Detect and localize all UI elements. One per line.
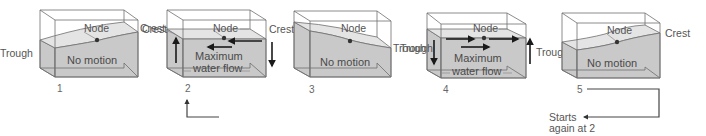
panel-number: 4	[443, 84, 449, 95]
no-motion-label: No motion	[67, 54, 117, 66]
max-flow-label-2: water flow	[451, 65, 502, 77]
max-flow-label-1: Maximum	[454, 52, 502, 64]
loop-label-2: again at 2	[549, 122, 595, 134]
node-dot	[482, 36, 486, 40]
trough-label: Trough	[0, 47, 33, 59]
node-label: Node	[607, 24, 632, 36]
trough-label-left: Trough	[400, 42, 433, 54]
crest-label-right: Crest	[269, 23, 294, 35]
panel-1: Node Trough Crest No motion 1	[0, 10, 165, 94]
node-label: Node	[213, 22, 238, 34]
panel-2: Node Crest Crest Maximum water flow 2	[142, 10, 294, 117]
no-motion-label: No motion	[587, 57, 637, 69]
crest-label: Crest	[665, 27, 690, 39]
box-top-back-edges	[294, 11, 391, 21]
node-label: Node	[84, 22, 109, 34]
node-label: Node	[473, 22, 498, 34]
max-flow-label-2: water flow	[192, 62, 243, 74]
return-arrow-icon	[187, 100, 219, 117]
node-dot	[348, 39, 352, 43]
panel-number: 3	[309, 84, 315, 95]
panel-5: Node Crest No motion 5 Starts again at 2	[549, 13, 690, 134]
box-top-back-edges	[167, 10, 266, 20]
node-label: Node	[341, 22, 366, 34]
panel-number: 1	[57, 83, 63, 94]
box-top-back-edges	[40, 10, 138, 20]
panel-number: 5	[577, 84, 583, 95]
standing-wave-diagram: Node Trough Crest No motion 1 Node Crest…	[0, 0, 706, 136]
crest-label-left: Crest	[142, 23, 167, 35]
loop-arrow-icon	[584, 89, 659, 117]
panel-number: 2	[185, 83, 191, 94]
panel-4: Node Trough Trough Maximum water flow 4	[400, 13, 569, 95]
no-motion-label: No motion	[320, 56, 370, 68]
water-left-side	[294, 22, 310, 77]
max-flow-label-1: Maximum	[195, 50, 243, 62]
